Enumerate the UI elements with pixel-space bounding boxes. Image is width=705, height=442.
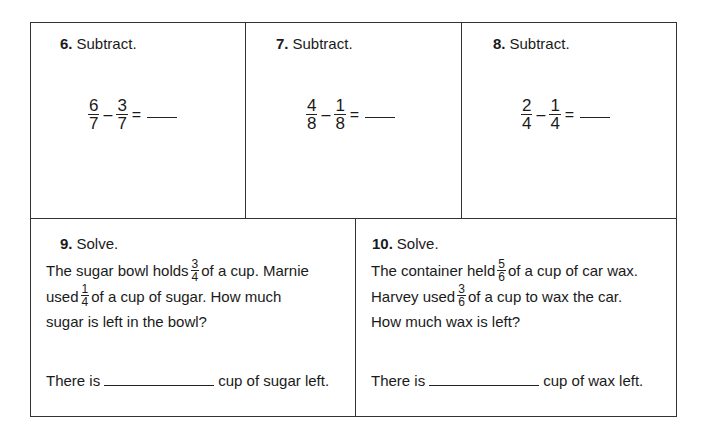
answer-blank[interactable] <box>580 116 610 118</box>
fraction: 14 <box>81 283 90 308</box>
problem-9-heading: 9.Solve. <box>60 235 118 252</box>
fraction: 67 <box>88 97 99 132</box>
divider <box>245 22 246 218</box>
worksheet-grid <box>30 22 677 417</box>
fraction: 56 <box>497 258 506 283</box>
problem-10-text: The container held56of a cup of car wax.… <box>371 259 638 334</box>
answer-blank[interactable] <box>104 384 214 386</box>
problem-number: 6. <box>60 35 73 52</box>
answer-blank[interactable] <box>429 384 539 386</box>
problem-8-heading: 8.Subtract. <box>493 35 570 52</box>
divider <box>355 218 356 417</box>
problem-6-heading: 6.Subtract. <box>60 35 137 52</box>
fraction: 48 <box>306 97 317 132</box>
fraction: 36 <box>457 283 466 308</box>
answer-blank[interactable] <box>147 116 177 118</box>
fraction: 34 <box>191 258 200 283</box>
problem-6-expression: 67 – 37 = <box>88 97 177 132</box>
problem-8-expression: 24 – 14 = <box>521 97 610 132</box>
divider <box>30 218 677 219</box>
divider <box>461 22 462 218</box>
problem-9-answer: There iscup of sugar left. <box>46 372 329 389</box>
problem-10-heading: 10.Solve. <box>372 235 439 252</box>
problem-7-expression: 48 – 18 = <box>306 97 395 132</box>
fraction: 37 <box>116 97 127 132</box>
problem-7-heading: 7.Subtract. <box>276 35 353 52</box>
problem-9-text: The sugar bowl holds34of a cup. Marnie u… <box>46 259 309 334</box>
answer-blank[interactable] <box>365 116 395 118</box>
problem-10-answer: There iscup of wax left. <box>371 372 643 389</box>
instruction: Subtract. <box>77 35 137 52</box>
fraction: 24 <box>521 97 532 132</box>
fraction: 14 <box>549 97 560 132</box>
fraction: 18 <box>334 97 345 132</box>
